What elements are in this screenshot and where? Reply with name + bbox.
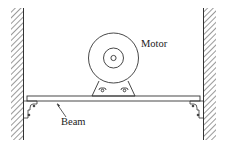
beam-label: Beam bbox=[61, 116, 86, 127]
beam bbox=[27, 96, 200, 101]
right-bracket bbox=[190, 101, 203, 118]
motor-label: Motor bbox=[141, 38, 168, 49]
motor-beam-diagram: Motor Beam bbox=[0, 0, 227, 150]
motor bbox=[89, 33, 139, 83]
right-wall bbox=[204, 8, 217, 140]
left-bracket bbox=[24, 101, 37, 118]
left-wall bbox=[11, 8, 24, 140]
beam-leader bbox=[57, 103, 66, 117]
